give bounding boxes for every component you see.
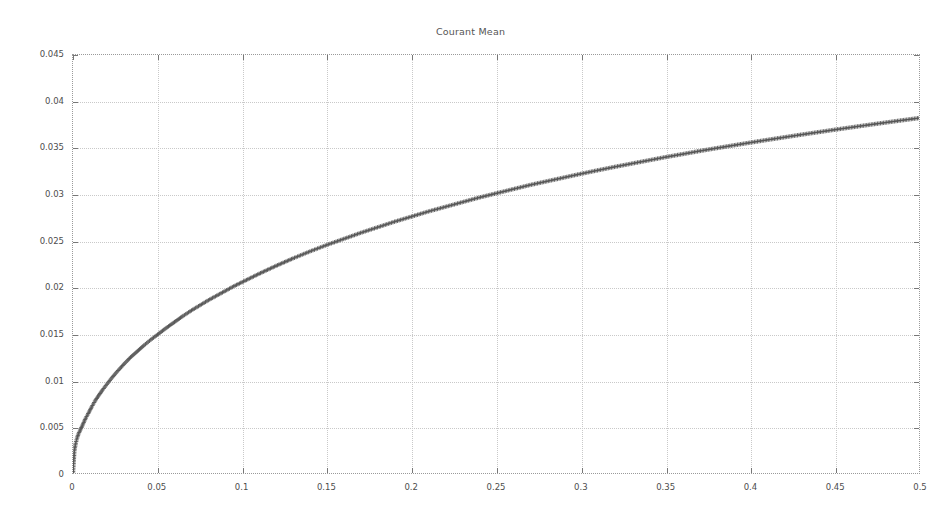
y-axis-label: 0.02 bbox=[0, 282, 64, 292]
y-axis-label: 0.035 bbox=[0, 142, 64, 152]
x-axis-label: 0.15 bbox=[317, 482, 336, 492]
x-axis-label: 0.45 bbox=[826, 482, 845, 492]
y-axis-label: 0.015 bbox=[0, 329, 64, 339]
x-axis-label: 0.4 bbox=[744, 482, 758, 492]
y-axis-label: 0 bbox=[0, 469, 64, 479]
series-courantmean-0 bbox=[73, 55, 919, 473]
y-axis-label: 0.005 bbox=[0, 422, 64, 432]
plot-area bbox=[72, 54, 920, 474]
x-axis-label: 0.5 bbox=[913, 482, 927, 492]
y-axis-label: 0.04 bbox=[0, 96, 64, 106]
chart-title: Courant Mean bbox=[0, 26, 941, 37]
x-axis-label: 0.25 bbox=[487, 482, 506, 492]
y-axis-label: 0.01 bbox=[0, 376, 64, 386]
x-axis-label: 0.05 bbox=[147, 482, 166, 492]
y-axis-label: 0.025 bbox=[0, 236, 64, 246]
y-axis-label: 0.045 bbox=[0, 49, 64, 59]
series-markers bbox=[73, 55, 919, 473]
x-axis-label: 0.35 bbox=[656, 482, 675, 492]
x-axis-label: 0.1 bbox=[235, 482, 249, 492]
y-axis-label: 0.03 bbox=[0, 189, 64, 199]
x-axis-label: 0.3 bbox=[574, 482, 588, 492]
chart-root: Courant Mean "CourantMean_0" 00.050.10.1… bbox=[0, 0, 941, 523]
x-axis-label: 0 bbox=[69, 482, 74, 492]
x-axis-label: 0.2 bbox=[404, 482, 418, 492]
plot-inner bbox=[73, 55, 919, 473]
